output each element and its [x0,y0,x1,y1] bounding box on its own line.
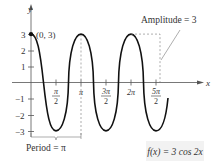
x-axis-label: x [205,78,210,88]
cosine-graph: y x 3 2 1 −1 −2 −3 π 2 π 3π 2 2π 5π [0,0,213,165]
y-tick-label: 3 [21,30,26,40]
y-tick-label: −1 [15,94,25,104]
amplitude-label: Amplitude = 3 [141,15,197,25]
y-axis-label: y [27,4,32,14]
x-tick-label-3pi-over-2: 3π 2 [101,87,111,106]
period-bracket [31,133,81,140]
point-label: (0, 3) [36,30,56,40]
amplitude-pointer [161,30,180,60]
x-tick-label-5pi-over-2: 5π 2 [151,87,161,106]
x-tick-label-pi: π [76,87,86,97]
y-tick-label: −3 [15,127,25,137]
x-axis-arrow-icon [197,81,204,85]
svg-text:2π: 2π [127,88,136,97]
y-tick-label: 1 [21,62,26,72]
x-tick-label-pi-over-2: π 2 [52,87,60,106]
point-marker [29,32,33,36]
y-tick-label: 2 [21,46,26,56]
amplitude-bracket [131,34,160,82]
y-tick-label: −2 [15,111,25,121]
svg-text:2: 2 [54,97,58,106]
formula-label: f(x) = 3 cos 2x [147,147,203,158]
svg-text:3π: 3π [101,87,111,96]
svg-text:5π: 5π [152,87,161,96]
svg-text:2: 2 [104,97,108,106]
svg-text:2: 2 [154,97,158,106]
svg-text:π: π [54,87,59,96]
period-label: Period = π [26,143,66,153]
x-tick-label-2pi: 2π [127,88,136,97]
